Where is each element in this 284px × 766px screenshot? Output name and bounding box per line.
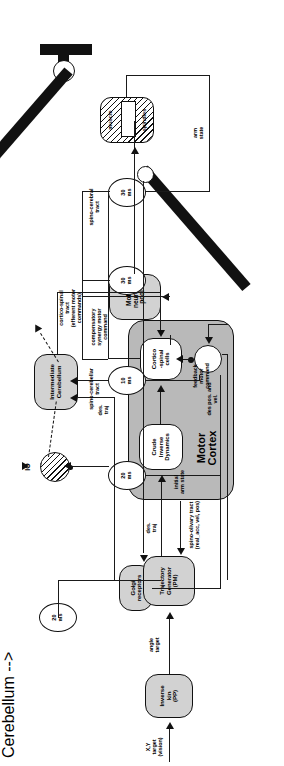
label-spino-olivary-tract: spino-olivary tract (real_acc, vel, pos) xyxy=(188,478,200,572)
muscle-label: muscle xyxy=(108,99,114,141)
arrow-into-io-from-top xyxy=(22,463,29,471)
edge-destraj-bus-to-cereb xyxy=(114,397,115,580)
label-des-traj-cerebellum: des. traj xyxy=(97,398,109,422)
arrow-despos-into-sum xyxy=(205,337,213,344)
arrow-compensatory-into-cells xyxy=(157,330,165,337)
arrow-initialstate-to-traj xyxy=(177,548,185,555)
motor-cortex-label: Motor Cortex xyxy=(196,413,218,483)
edge-despos-v xyxy=(222,354,228,355)
edge-spinocerebral-h xyxy=(108,191,109,359)
upperarm-segment xyxy=(139,165,250,291)
arrow-cid-to-cells xyxy=(157,385,165,392)
delay-spino-cerebellar[interactable]: 10 ms xyxy=(108,366,146,395)
edge-spindles-to-bus xyxy=(126,75,127,97)
edge-delay20-destraj-right xyxy=(58,580,59,604)
label-arm-state: arm state xyxy=(192,118,204,148)
label-angle-target: angle target xyxy=(148,628,160,662)
edge-armstate-bus xyxy=(209,75,210,192)
label-des-traj-cortex: des. traj xyxy=(145,516,157,540)
arrow-invkin-to-traj xyxy=(166,612,174,619)
edge-armstate-to-delay30 xyxy=(145,191,210,192)
edge-traj-to-cid xyxy=(161,480,162,556)
arrow-delay10-to-cerebellum xyxy=(70,377,77,385)
elbow-joint xyxy=(137,166,154,183)
arrow-traj-to-cid xyxy=(158,475,166,482)
label-spino-cerebral-tract: spino-cerebral tract xyxy=(88,179,100,235)
edge-cid-to-cells xyxy=(160,390,161,424)
label-compensatory-command: compensatory synergy motor command xyxy=(90,296,108,358)
arrow-elbow-to-golgi xyxy=(140,555,148,562)
edge-mnp-muscle-line xyxy=(134,152,135,274)
arrow-cerebellum-compensatory xyxy=(32,322,42,332)
label-initial-arm-state: initial arm state xyxy=(173,464,185,500)
edge-initialstate-to-traj xyxy=(180,501,181,548)
edge-spinocerebral-top xyxy=(82,191,83,360)
node-inverse-kin[interactable]: Inverse kin (PP) xyxy=(145,674,193,718)
edge-cells-out-up xyxy=(108,358,141,359)
forearm-segment xyxy=(0,67,73,170)
edge-despos-riser xyxy=(208,324,228,325)
edge-into-sum-v xyxy=(82,359,108,360)
edge-xytarget-to-invkin xyxy=(169,726,170,762)
arrow-destraj-to-cerebellum xyxy=(70,394,77,402)
io-input-dot xyxy=(68,465,73,470)
edge-despos-into-sum xyxy=(208,324,209,338)
edge-delay30-to-mnp xyxy=(82,280,110,281)
edge-despos-h xyxy=(227,354,228,580)
edge-golgi-down xyxy=(152,588,221,589)
edge-traj-up-to-delay xyxy=(58,580,161,581)
spindles-label: spindles xyxy=(142,99,148,141)
arrow-xytarget-to-invkin xyxy=(166,722,174,729)
edge-delay20-to-io xyxy=(70,466,109,467)
edge-invkin-to-traj xyxy=(169,618,170,674)
arrow-sum-to-cells xyxy=(176,356,183,364)
edge-elbow-to-golgi xyxy=(143,181,144,553)
delay-spino-cerebral[interactable]: 30 ms xyxy=(108,178,146,207)
edge-sensory-bus xyxy=(220,375,221,589)
edge-spindles-down xyxy=(126,75,210,76)
delay-cortico-spinal[interactable]: 30 ms xyxy=(108,266,146,295)
label-cortico-spinal-tract: cortico-spinal tract (efferent motor com… xyxy=(58,278,82,338)
edge-sum-to-cells-h xyxy=(170,335,171,345)
label-des-pos-vel: des pos. and vel. xyxy=(206,376,218,422)
label-xy-target: X,Y target (vision) xyxy=(145,727,163,766)
